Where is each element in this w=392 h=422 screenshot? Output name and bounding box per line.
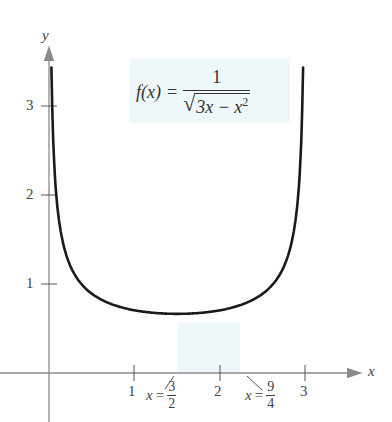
- x-tick-label-1: 1: [128, 384, 136, 399]
- plot-area: [0, 0, 392, 422]
- formula-denominator: √ 3x − x2: [183, 91, 250, 118]
- annotation-fraction: 9 4: [266, 380, 275, 411]
- formula-equals: =: [167, 82, 177, 103]
- formula-numerator: 1: [183, 67, 250, 91]
- annotation-x-3-2: x = 3 2: [146, 380, 176, 411]
- formula-radicand: 3x − x2: [194, 93, 250, 118]
- y-tick-label-3: 3: [26, 98, 34, 113]
- annotation-x-9-4: x = 9 4: [245, 380, 275, 411]
- function-formula: f(x) = 1 √ 3x − x2: [136, 66, 282, 118]
- x-axis-label: x: [368, 364, 375, 379]
- annotation-var: x: [146, 387, 153, 404]
- x-tick-label-3: 3: [300, 384, 308, 399]
- y-axis-label: y: [42, 28, 49, 43]
- annotation-var: x: [245, 387, 252, 404]
- y-tick-label-2: 2: [26, 187, 34, 202]
- x-tick-label-2: 2: [214, 384, 222, 399]
- formula-fraction: 1 √ 3x − x2: [183, 67, 250, 118]
- annotation-eq: =: [156, 387, 164, 404]
- annotation-fraction: 3 2: [167, 380, 176, 411]
- annotation-eq: =: [255, 387, 263, 404]
- y-tick-label-1: 1: [26, 276, 34, 291]
- formula-lhs: f(x): [136, 82, 161, 103]
